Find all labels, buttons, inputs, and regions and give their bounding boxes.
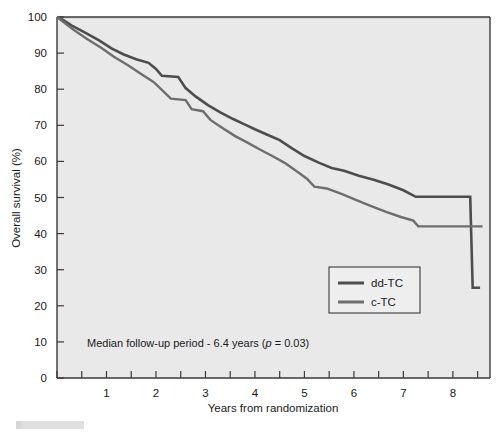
chart-legend[interactable]: dd-TCc-TC <box>329 267 420 313</box>
y-axis-title: Overall survival (%) <box>10 148 22 248</box>
x-tick-label: 2 <box>153 387 159 399</box>
y-tick-label: 50 <box>34 192 47 204</box>
scan-artifact-bar-cap <box>16 421 22 429</box>
annotation-p-italic: p <box>265 337 272 349</box>
x-tick-label: 1 <box>103 387 109 399</box>
figure-container: 0102030405060708090100 12345678 Overall … <box>0 0 498 432</box>
x-tick-label: 3 <box>202 387 208 399</box>
y-tick-label: 10 <box>34 336 47 348</box>
x-tick-label: 7 <box>400 387 406 399</box>
x-tick-label: 6 <box>351 387 357 399</box>
annotation-after-text: = 0.03) <box>272 337 310 349</box>
annotation-before-text: Median follow-up period - 6.4 years ( <box>87 337 266 349</box>
y-tick-label: 70 <box>34 119 47 131</box>
median-followup-annotation: Median follow-up period - 6.4 years (p =… <box>87 337 309 349</box>
y-tick-label: 90 <box>34 47 47 59</box>
y-tick-label: 100 <box>28 11 47 23</box>
x-axis-title: Years from randomization <box>208 402 339 414</box>
y-tick-label: 60 <box>34 155 47 167</box>
y-tick-label: 0 <box>41 372 47 384</box>
survival-chart: 0102030405060708090100 12345678 Overall … <box>0 0 498 432</box>
scan-artifact-bar <box>16 421 84 429</box>
y-tick-label: 80 <box>34 83 47 95</box>
x-tick-label: 8 <box>450 387 456 399</box>
x-tick-label: 4 <box>252 387 259 399</box>
y-tick-label: 40 <box>34 228 47 240</box>
legend-label-dd-tc: dd-TC <box>371 277 403 289</box>
legend-label-c-tc: c-TC <box>371 296 396 308</box>
y-tick-label: 30 <box>34 264 47 276</box>
x-tick-label: 5 <box>301 387 307 399</box>
y-tick-label: 20 <box>34 300 47 312</box>
